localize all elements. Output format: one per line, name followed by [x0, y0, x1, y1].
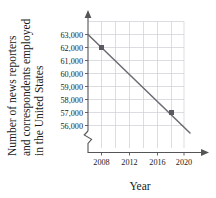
x-tick-label: 2012 — [121, 158, 137, 167]
y-tick-label: 57,000 — [60, 109, 83, 118]
chart-figure: 63,000 62,000 61,000 60,000 59,000 58,00… — [0, 0, 216, 198]
data-point-marker — [99, 45, 104, 50]
x-axis-tick-labels: 2008 2012 2016 2020 — [93, 158, 192, 167]
x-axis-arrowhead — [201, 149, 209, 156]
y-tick-label: 63,000 — [60, 31, 83, 40]
y-tick-label: 61,000 — [60, 57, 83, 66]
y-axis-title-line-2: and correspondents employed — [20, 18, 33, 156]
x-tick-label: 2008 — [93, 158, 109, 167]
vertical-grid-lines — [102, 22, 185, 149]
chart-canvas: 63,000 62,000 61,000 60,000 59,000 58,00… — [0, 0, 216, 198]
grid-lines — [88, 22, 184, 149]
y-axis-title-line-3: in the United States — [33, 65, 45, 156]
x-tick-label: 2020 — [176, 158, 192, 167]
y-axis-arrowhead — [85, 10, 92, 18]
y-tick-label: 60,000 — [60, 70, 83, 79]
data-point-marker — [169, 110, 174, 115]
x-axis — [88, 149, 209, 156]
y-tick-label: 56,000 — [60, 122, 83, 131]
y-axis-title: Number of news reporters and corresponde… — [6, 18, 45, 156]
horizontal-grid-lines — [88, 22, 184, 126]
y-tick-label: 59,000 — [60, 83, 83, 92]
x-tick-label: 2016 — [149, 158, 165, 167]
y-axis-break-icon — [84, 131, 91, 153]
y-tick-label: 58,000 — [60, 96, 83, 105]
y-tick-label: 62,000 — [60, 44, 83, 53]
y-axis-tick-labels: 63,000 62,000 61,000 60,000 59,000 58,00… — [60, 31, 83, 131]
y-axis-title-line-1: Number of news reporters — [6, 35, 19, 156]
y-axis — [84, 10, 91, 153]
x-axis-title: Year — [129, 180, 150, 192]
